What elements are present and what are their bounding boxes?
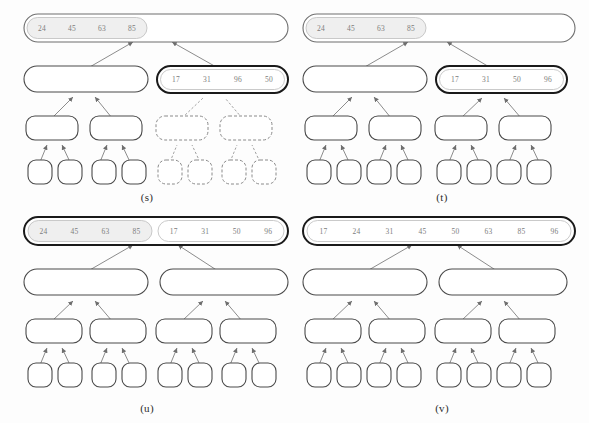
panel-t-leaf-4 xyxy=(397,160,421,184)
panel-s-leaf-3 xyxy=(92,160,116,184)
panel-u-diagram xyxy=(0,211,294,422)
panel-u-leaf-8 xyxy=(252,363,276,387)
panel-t-edges-level2 xyxy=(331,97,521,118)
panel-s-root-section-left xyxy=(27,18,147,39)
panel-v-caption: (v) xyxy=(295,402,589,414)
panel-s-edges-level2-left xyxy=(52,97,112,118)
panel-u-level2-box-3 xyxy=(156,319,212,343)
panel-s-left-node xyxy=(24,66,148,92)
panel-v-leaf-1 xyxy=(307,363,331,387)
panel-t-leaf-3 xyxy=(367,160,391,184)
panel-s-level2-box-2 xyxy=(90,116,142,140)
panel-t-right-node-inner xyxy=(440,70,564,90)
panel-v-leaf-5 xyxy=(437,363,461,387)
panel-s-leaf-6-dashed xyxy=(188,160,212,184)
panel-u-level1-box-left xyxy=(24,269,148,295)
panel-u-root-section-right xyxy=(158,221,284,242)
panel-s: 24 45 63 85 17 31 96 50 (s) xyxy=(0,0,294,211)
panel-v-leaf-6 xyxy=(467,363,491,387)
panel-v-level2-box-2 xyxy=(369,319,425,343)
panel-v-level2-box-3 xyxy=(435,319,491,343)
panel-u-level2-box-2 xyxy=(90,319,146,343)
panel-u-caption: (u) xyxy=(0,402,294,414)
panel-t-leaf-2 xyxy=(337,160,361,184)
panel-u-edges-level1 xyxy=(88,245,218,271)
panel-v-edges-level2 xyxy=(331,301,521,321)
panel-t-leaf-5 xyxy=(437,160,461,184)
panel-v-leaf-8 xyxy=(527,363,551,387)
panel-u-leaf-7 xyxy=(222,363,246,387)
panel-s-level2-box-1 xyxy=(26,116,78,140)
panel-s-caption: (s) xyxy=(0,191,294,203)
panel-t: 24 45 63 85 17 31 50 96 (t) xyxy=(295,0,589,211)
panel-u-leaf-5 xyxy=(158,363,182,387)
panel-t-level2-box-4 xyxy=(499,116,551,140)
panel-v-leaf-3 xyxy=(367,363,391,387)
panel-v-root-section xyxy=(307,221,571,242)
panel-v-leaf-2 xyxy=(337,363,361,387)
panel-t-level2-box-1 xyxy=(305,116,357,140)
panel-u-edges-level2 xyxy=(52,301,242,321)
panel-t-caption: (t) xyxy=(295,191,589,203)
panel-u-leaf-4 xyxy=(122,363,146,387)
panel-s-leaf-7-dashed xyxy=(222,160,246,184)
panel-v-level1-box-left xyxy=(303,269,427,295)
panel-u-level2-box-1 xyxy=(26,319,82,343)
panel-u-level2-box-4 xyxy=(220,319,276,343)
panel-s-right-node-inner xyxy=(161,70,285,90)
panel-t-leaf-1 xyxy=(307,160,331,184)
panel-v: 17 24 31 45 50 63 85 96 (v) xyxy=(295,211,589,422)
panel-s-leaf-4 xyxy=(122,160,146,184)
panel-v-level1-box-right xyxy=(439,269,567,295)
panel-t-diagram xyxy=(295,0,589,211)
panel-s-leaf-1 xyxy=(28,160,52,184)
panel-s-level2-box-3-dashed xyxy=(156,116,208,140)
panel-u-leaf-6 xyxy=(188,363,212,387)
panel-s-leaf-5-dashed xyxy=(158,160,182,184)
panel-t-root-section-left xyxy=(306,18,426,39)
panel-u-root-section-left xyxy=(28,221,152,242)
panel-t-leaf-7 xyxy=(497,160,521,184)
panel-u-leaf-3 xyxy=(92,363,116,387)
panel-s-level2-box-4-dashed xyxy=(220,116,272,140)
panel-t-left-node xyxy=(303,66,427,92)
panel-v-edges-level1 xyxy=(367,245,497,271)
panel-t-edges-level1 xyxy=(363,42,491,68)
panel-v-leaf-7 xyxy=(497,363,521,387)
panel-u-level1-box-right xyxy=(160,269,288,295)
panel-t-level2-box-2 xyxy=(369,116,421,140)
panel-v-level2-box-1 xyxy=(305,319,361,343)
panel-s-diagram xyxy=(0,0,294,211)
panel-s-leaf-8-dashed xyxy=(252,160,276,184)
panel-v-leaf-4 xyxy=(397,363,421,387)
panel-u-leaf-1 xyxy=(28,363,52,387)
panel-u-leaf-2 xyxy=(58,363,82,387)
panel-u: 24 45 63 85 17 31 50 96 (u) xyxy=(0,211,294,422)
panel-s-edges-leaves-left xyxy=(40,145,130,162)
panel-v-diagram xyxy=(295,211,589,422)
merge-sort-figure: 24 45 63 85 17 31 96 50 (s) xyxy=(0,0,589,423)
panel-t-leaf-8 xyxy=(527,160,551,184)
panel-v-level2-box-4 xyxy=(499,319,555,343)
panel-t-leaf-6 xyxy=(467,160,491,184)
panel-s-leaf-2 xyxy=(58,160,82,184)
panel-t-level2-box-3 xyxy=(435,116,487,140)
panel-s-edges-level1 xyxy=(88,42,218,68)
